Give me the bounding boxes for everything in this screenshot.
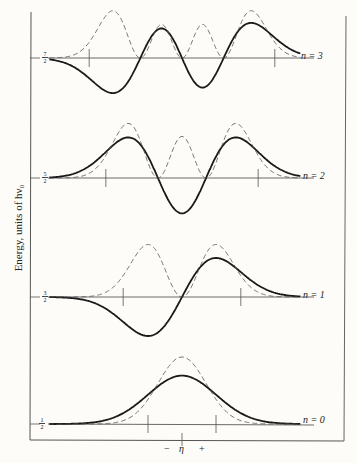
energy-tick-3-2: 32 xyxy=(41,290,49,303)
level-label-n2: n = 2 xyxy=(303,170,325,181)
x-minus-label: − xyxy=(164,443,170,454)
level-label-n0: n = 0 xyxy=(303,414,325,425)
x-axis xyxy=(30,440,344,441)
y-axis xyxy=(30,12,31,440)
x-eta-label: η xyxy=(179,443,184,454)
level-label-n1: n = 1 xyxy=(303,289,325,300)
probability-density-curve-n0 xyxy=(49,357,300,424)
wavefunction-curve-n2 xyxy=(49,137,300,213)
x-plus-label: + xyxy=(199,443,205,454)
energy-level-line-n0 xyxy=(48,424,314,425)
probability-density-curve-n3 xyxy=(49,11,300,58)
right-frame xyxy=(344,16,346,441)
oscillator-figure xyxy=(0,0,357,463)
probability-density-curve-n1 xyxy=(49,245,300,298)
y-axis-label: Energy, units of hν₀ xyxy=(12,148,24,308)
energy-tick-1-2: 12 xyxy=(38,417,46,430)
energy-tick-5-2: 52 xyxy=(41,171,49,184)
level-label-n3: n = 3 xyxy=(301,50,323,61)
energy-tick-7-2: 72 xyxy=(41,51,49,64)
wavefunction-curve-n0 xyxy=(49,376,300,424)
probability-density-curve-n2 xyxy=(49,123,300,178)
